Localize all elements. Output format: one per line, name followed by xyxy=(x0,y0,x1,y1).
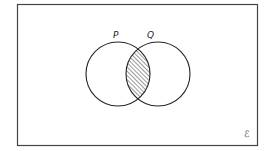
universal-set-symbol: ℰ xyxy=(244,129,250,139)
set-p-label: P xyxy=(113,30,119,40)
venn-diagram: P Q ℰ xyxy=(0,0,271,151)
set-q-label: Q xyxy=(147,30,154,40)
